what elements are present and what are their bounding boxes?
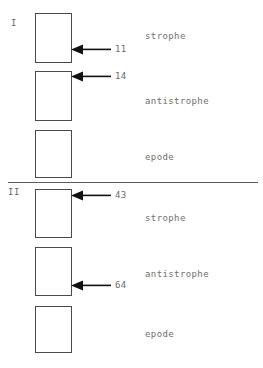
stanza-label-strophe: strophe [145, 213, 186, 223]
triad-divider [8, 182, 258, 183]
left-arrow-icon [71, 44, 111, 55]
left-arrow-icon [71, 71, 111, 82]
section-numeral-i: I [11, 19, 17, 28]
line-count-value: 43 [115, 190, 127, 201]
left-arrow-icon [71, 190, 111, 201]
clipped-header-text [22, 0, 222, 1]
stanza-label-antistrophe: antistrophe [145, 269, 209, 279]
stanza-box [35, 247, 72, 296]
stanza-label-epode: epode [145, 152, 174, 162]
stanza-box [35, 189, 72, 238]
section-numeral-ii: II [8, 188, 20, 197]
line-count-value: 14 [115, 71, 127, 82]
line-count-value: 11 [115, 44, 127, 55]
stanza-label-strophe: strophe [145, 31, 186, 41]
stanza-box [35, 306, 72, 353]
metrical-scheme-diagram: I strophe antistrophe epode 11 14 II [0, 0, 263, 368]
left-arrow-icon [71, 280, 111, 291]
stanza-box [35, 71, 72, 121]
line-count-annotation: 64 [71, 280, 141, 291]
stanza-box [35, 13, 72, 63]
line-count-annotation: 14 [71, 71, 141, 82]
stanza-label-antistrophe: antistrophe [145, 96, 209, 106]
line-count-annotation: 11 [71, 44, 141, 55]
stanza-label-epode: epode [145, 329, 174, 339]
line-count-annotation: 43 [71, 190, 141, 201]
line-count-value: 64 [115, 280, 127, 291]
stanza-box [35, 130, 72, 178]
